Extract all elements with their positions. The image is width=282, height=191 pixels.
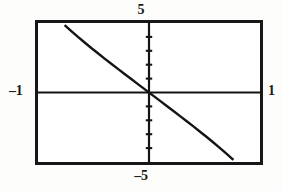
graph-screenshot: 5 –5 –1 1 <box>0 0 282 191</box>
x-min-label: –1 <box>9 84 23 98</box>
x-max-label: 1 <box>268 84 275 98</box>
y-max-label: 5 <box>0 3 282 17</box>
plot-frame <box>35 20 263 165</box>
y-min-label: –5 <box>0 169 282 183</box>
